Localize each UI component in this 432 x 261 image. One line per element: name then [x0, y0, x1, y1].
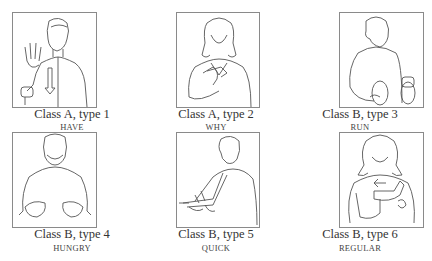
class-label: Class B, type 4 [0, 227, 144, 242]
signer-illustration [13, 13, 96, 107]
illustration-frame [12, 12, 97, 108]
class-label: Class B, type 3 [288, 107, 432, 122]
panel-why: Class A, type 2 WHY [144, 0, 288, 130]
panel-have: Class A, type 1 HAVE [0, 0, 144, 130]
signer-illustration [13, 133, 96, 227]
signer-illustration [340, 133, 423, 227]
class-label: Class B, type 6 [288, 227, 432, 242]
sign-gloss: HUNGRY [0, 243, 144, 253]
illustration-frame [12, 132, 97, 228]
illustration-frame [176, 132, 260, 228]
signer-illustration [177, 13, 259, 107]
illustration-frame [176, 12, 260, 108]
class-label: Class A, type 1 [0, 107, 144, 122]
panel-regular: Class B, type 6 REGULAR [288, 130, 432, 260]
panel-quick: Class B, type 5 QUICK [144, 130, 288, 260]
class-label: Class A, type 2 [144, 107, 288, 122]
panel-hungry: Class B, type 4 HUNGRY [0, 130, 144, 260]
signer-illustration [177, 133, 259, 227]
signer-illustration [340, 13, 423, 107]
illustration-frame [339, 132, 424, 228]
class-label: Class B, type 5 [144, 227, 288, 242]
panel-run: Class B, type 3 RUN [288, 0, 432, 130]
sign-gloss: QUICK [144, 243, 288, 253]
sign-gloss: REGULAR [288, 243, 432, 253]
illustration-frame [339, 12, 424, 108]
